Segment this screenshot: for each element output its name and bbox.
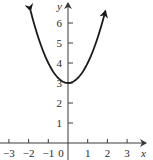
x-axis-label: x bbox=[140, 147, 146, 159]
y-tick-label: 5 bbox=[57, 37, 63, 49]
x-tick-label: 3 bbox=[124, 147, 130, 159]
y-tick-label: 2 bbox=[57, 97, 63, 109]
x-tick-label: 0 bbox=[58, 147, 64, 159]
x-tick-label: 2 bbox=[105, 147, 111, 159]
y-tick-label: 1 bbox=[57, 117, 63, 129]
x-tick-label: −2 bbox=[23, 147, 35, 159]
parabola-chart: −3−2−10123 123456 x y bbox=[0, 0, 153, 160]
y-tick-label: 6 bbox=[57, 17, 63, 29]
x-axis-ticks: −3−2−10123 bbox=[3, 139, 130, 159]
y-tick-label: 4 bbox=[57, 57, 63, 69]
y-axis-ticks: 123456 bbox=[57, 17, 74, 129]
x-tick-label: 1 bbox=[85, 147, 91, 159]
x-tick-label: −3 bbox=[3, 147, 15, 159]
x-tick-label: −1 bbox=[42, 147, 54, 159]
y-axis-label: y bbox=[56, 0, 62, 12]
